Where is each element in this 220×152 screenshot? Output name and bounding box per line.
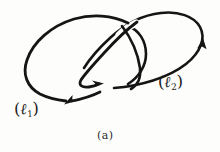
loop-2-label-close-paren: )	[176, 71, 183, 90]
arrowhead-loop1-inner	[92, 81, 104, 88]
loop-1-label: (ℓ1)	[14, 101, 40, 120]
loop1-diagonal-stroke	[122, 26, 140, 89]
loop-2-label-symbol: ℓ	[164, 73, 171, 91]
loop-1-label-close-paren: )	[32, 99, 39, 118]
loop2-main-stroke	[84, 13, 202, 88]
loop1-bottom-stroke	[72, 92, 100, 101]
figure-container: (ℓ1) (ℓ2) (a)	[0, 0, 220, 152]
loop-2-label: (ℓ2)	[158, 73, 184, 92]
curve-loop-2	[84, 13, 202, 88]
loop-1-label-symbol: ℓ	[20, 100, 27, 118]
mask-over-loop2-lower	[95, 55, 112, 72]
figure-caption: (a)	[97, 130, 114, 141]
